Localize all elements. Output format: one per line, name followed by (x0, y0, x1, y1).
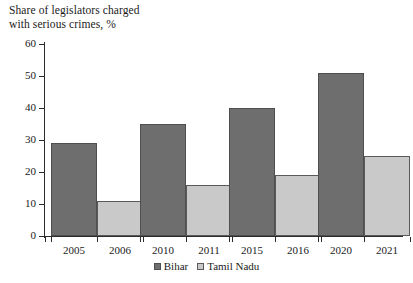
x-tick-label-2006: 2006 (97, 244, 143, 256)
y-tick-40 (39, 108, 44, 109)
x-tick-label-2015: 2015 (229, 244, 275, 256)
x-tick-label-2021: 2021 (364, 244, 410, 256)
x-tick (229, 237, 230, 242)
x-tick-label-2005: 2005 (51, 244, 97, 256)
y-tick-label-text: 40 (12, 102, 36, 113)
y-tick-0 (39, 236, 44, 237)
bar-2021 (364, 156, 410, 236)
bar-2005 (51, 143, 97, 236)
bar-chart: Share of legislators charged with seriou… (0, 0, 413, 283)
y-tick-label-50: 50 (8, 70, 36, 81)
chart-legend: BiharTamil Nadu (0, 261, 413, 272)
y-tick-50 (39, 76, 44, 77)
legend-item-bihar[interactable]: Bihar (154, 261, 188, 272)
x-tick (321, 237, 322, 242)
x-tick (232, 237, 233, 242)
plot-area (45, 44, 403, 236)
x-tick (318, 237, 319, 242)
x-tick-label-2016: 2016 (275, 244, 321, 256)
x-tick (143, 237, 144, 242)
y-tick-30 (39, 140, 44, 141)
legend-swatch-icon (197, 263, 204, 270)
bar-2011 (186, 185, 232, 236)
y-tick-20 (39, 172, 44, 173)
x-tick (140, 237, 141, 242)
y-tick-label-text: 50 (12, 70, 36, 81)
y-tick-10 (39, 204, 44, 205)
legend-item-tamil-nadu[interactable]: Tamil Nadu (197, 261, 259, 272)
chart-title: Share of legislators charged with seriou… (9, 3, 269, 31)
legend-label: Bihar (164, 261, 188, 272)
x-tick-label-2011: 2011 (186, 244, 232, 256)
bar-2020 (318, 73, 364, 236)
x-tick-label-2010: 2010 (140, 244, 186, 256)
legend-label: Tamil Nadu (207, 261, 259, 272)
y-tick-label-text: 30 (12, 134, 36, 145)
bar-2006 (97, 201, 143, 236)
bar-2015 (229, 108, 275, 236)
x-tick (410, 237, 411, 242)
y-tick-label-60: 60 (8, 38, 36, 49)
y-tick-label-20: 20 (8, 166, 36, 177)
legend-swatch-icon (154, 263, 161, 270)
x-tick (51, 237, 52, 242)
x-tick (186, 237, 187, 242)
x-tick (364, 237, 365, 242)
bar-2016 (275, 175, 321, 236)
y-tick-label-text: 0 (12, 230, 36, 241)
y-tick-label-40: 40 (8, 102, 36, 113)
y-tick-60 (39, 44, 44, 45)
x-tick (275, 237, 276, 242)
y-tick-label-text: 10 (12, 198, 36, 209)
bar-2010 (140, 124, 186, 236)
y-tick-label-text: 60 (12, 38, 36, 49)
y-tick-label-text: 20 (12, 166, 36, 177)
y-tick-label-0: 0 (8, 230, 36, 241)
y-tick-label-30: 30 (8, 134, 36, 145)
x-tick-origin (45, 237, 46, 242)
y-tick-label-10: 10 (8, 198, 36, 209)
x-tick (97, 237, 98, 242)
x-tick-label-2020: 2020 (318, 244, 364, 256)
